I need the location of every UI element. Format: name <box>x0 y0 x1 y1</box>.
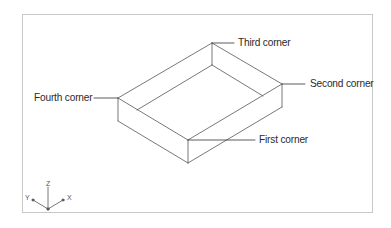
box-vertical-edges <box>118 84 282 163</box>
third-corner-label: Third corner <box>238 37 290 49</box>
ucs-x-label: X <box>67 194 72 201</box>
fourth-corner-label: Fourth corner <box>34 92 92 104</box>
box-inner-edges <box>137 43 263 110</box>
ucs-icon <box>32 187 64 210</box>
second-corner-label: Second corner <box>310 78 374 90</box>
box-bottom-edges <box>118 107 282 163</box>
box-drawing <box>0 0 391 228</box>
first-corner-label: First corner <box>259 134 308 146</box>
ucs-y-label: Y <box>25 194 30 201</box>
box-top-outer-edges <box>118 43 282 140</box>
ucs-z-label: Z <box>46 180 50 187</box>
